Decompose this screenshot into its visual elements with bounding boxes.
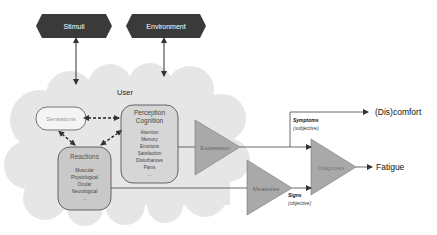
- signs-sub-label: (objective): [288, 200, 311, 206]
- discomfort-output: (Dis)comfort: [375, 107, 422, 117]
- perception-item: Pains: [144, 165, 156, 170]
- signs-label: Signs: [288, 192, 302, 198]
- reactions-item: Physiological: [71, 175, 98, 180]
- reactions-item: Neurological: [72, 189, 98, 194]
- measures-label: Measures: [253, 186, 279, 192]
- user-label: User: [117, 88, 133, 97]
- reactions-item: Muscular: [75, 168, 94, 173]
- diagram-canvas: Stimuli Environment User Sensations Perc…: [0, 0, 437, 235]
- perception-item: Memory: [141, 137, 158, 142]
- diagnosis-label: Diagnosis: [318, 165, 344, 171]
- reactions-item: ...: [83, 196, 87, 201]
- perception-item: Disturbances: [136, 158, 164, 163]
- fatigue-output: Fatigue: [376, 162, 405, 172]
- perception-item: ...: [148, 172, 152, 177]
- cognition-title: Cognition: [136, 117, 164, 125]
- symptoms-label: Symptoms: [293, 117, 319, 123]
- stimuli-label: Stimuli: [63, 23, 84, 30]
- environment-label: Environment: [146, 23, 185, 30]
- expression-label: Expression: [200, 145, 230, 151]
- perception-item: Satisfaction: [138, 151, 162, 156]
- reactions-title: Reactions: [70, 153, 100, 160]
- perception-item: Attention: [140, 130, 159, 135]
- perception-item: Emotions: [140, 144, 160, 149]
- symptoms-sub-label: (subjective): [293, 125, 319, 131]
- reactions-item: Ocular: [78, 182, 92, 187]
- sensations-label: Sensations: [46, 116, 76, 122]
- perception-title: Perception: [134, 109, 165, 117]
